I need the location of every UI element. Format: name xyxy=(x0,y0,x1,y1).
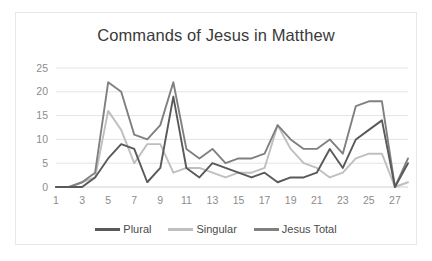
x-axis-tick-label: 21 xyxy=(311,194,323,206)
y-axis-tick-label: 15 xyxy=(36,109,48,121)
y-axis-tick-label: 20 xyxy=(36,85,48,97)
chart-container: Commands of Jesus in Matthew 0510152025 … xyxy=(15,12,417,245)
line-chart-svg: 0510152025 13579111315171921232527 xyxy=(16,13,418,246)
x-axis-tick-label: 7 xyxy=(131,194,137,206)
legend-item-jesus-total[interactable]: Jesus Total xyxy=(254,223,337,235)
legend-swatch-icon xyxy=(254,228,279,231)
legend-label: Singular xyxy=(196,223,236,235)
plot-area: 0510152025 13579111315171921232527 xyxy=(16,13,418,246)
x-axis-tick-label: 11 xyxy=(181,194,192,206)
x-axis-tick-label: 23 xyxy=(337,194,349,206)
legend-swatch-icon xyxy=(95,228,120,231)
legend-swatch-icon xyxy=(168,228,193,231)
x-axis-tick-label: 17 xyxy=(259,194,271,206)
y-axis-tick-labels: 0510152025 xyxy=(36,62,48,193)
y-axis-tick-label: 5 xyxy=(42,157,48,169)
series-line-singular xyxy=(56,111,408,187)
x-axis-tick-label: 1 xyxy=(53,194,59,206)
legend-item-plural[interactable]: Plural xyxy=(95,223,151,235)
chart-legend: PluralSingularJesus Total xyxy=(16,223,416,235)
x-axis-tick-labels: 13579111315171921232527 xyxy=(53,194,401,206)
y-axis-tick-label: 25 xyxy=(36,62,48,74)
y-axis-tick-label: 0 xyxy=(42,181,48,193)
legend-item-singular[interactable]: Singular xyxy=(168,223,236,235)
legend-label: Plural xyxy=(123,223,151,235)
data-series-group xyxy=(56,82,408,187)
legend-label: Jesus Total xyxy=(282,223,337,235)
x-axis-tick-label: 25 xyxy=(363,194,375,206)
x-axis-tick-label: 15 xyxy=(233,194,245,206)
x-axis-tick-label: 5 xyxy=(105,194,111,206)
x-axis-tick-label: 13 xyxy=(207,194,219,206)
gridlines xyxy=(56,68,408,187)
y-axis-tick-label: 10 xyxy=(36,133,48,145)
x-axis-tick-label: 9 xyxy=(157,194,163,206)
x-axis-tick-label: 3 xyxy=(79,194,85,206)
x-axis-tick-label: 27 xyxy=(389,194,401,206)
x-axis-tick-label: 19 xyxy=(285,194,297,206)
